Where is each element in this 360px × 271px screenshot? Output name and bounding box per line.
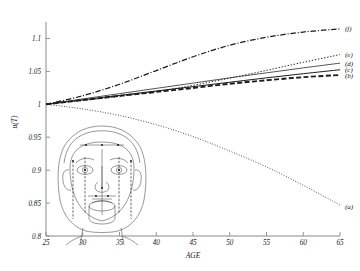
data-series-e (46, 55, 340, 105)
data-series-c (46, 70, 340, 105)
x-tick-label: 60 (300, 239, 308, 247)
x-axis-title: AGE (185, 251, 201, 260)
y-tick-label: 1.1 (32, 35, 41, 43)
x-tick-label: 55 (263, 239, 271, 247)
x-axis-ticks: 253035404550556065 (42, 232, 344, 247)
y-tick-label: 0.95 (28, 134, 41, 142)
data-series-f (46, 29, 340, 104)
data-curves (46, 29, 340, 205)
data-series-a (46, 104, 340, 205)
x-tick-label: 30 (78, 239, 87, 247)
x-tick-label: 45 (189, 239, 197, 247)
x-tick-label: 50 (226, 239, 234, 247)
series-label-f: (f) (345, 25, 352, 33)
x-tick-label: 35 (115, 239, 124, 247)
data-series-d (46, 63, 340, 104)
curve-labels: (a)(b)(c)(d)(e)(f) (345, 25, 354, 210)
series-label-e: (e) (345, 51, 353, 59)
y-axis-title: u(T) (10, 115, 19, 128)
x-tick-label: 40 (153, 239, 161, 247)
series-label-a: (a) (345, 203, 354, 211)
y-tick-label: 1 (37, 101, 41, 109)
chart-svg: 253035404550556065 0.80.850.90.9511.051.… (0, 0, 360, 271)
y-tick-label: 0.9 (32, 167, 41, 175)
face-diagram-overlay (58, 126, 146, 245)
x-tick-label: 25 (42, 239, 50, 247)
y-tick-label: 0.85 (28, 200, 41, 208)
series-label-d: (d) (345, 60, 354, 68)
y-axis-ticks: 0.80.850.90.9511.051.1 (28, 35, 50, 241)
figure-container: 253035404550556065 0.80.850.90.9511.051.… (0, 0, 360, 271)
y-tick-label: 0.8 (32, 233, 41, 241)
x-tick-label: 65 (336, 239, 344, 247)
y-tick-label: 1.05 (28, 68, 41, 76)
